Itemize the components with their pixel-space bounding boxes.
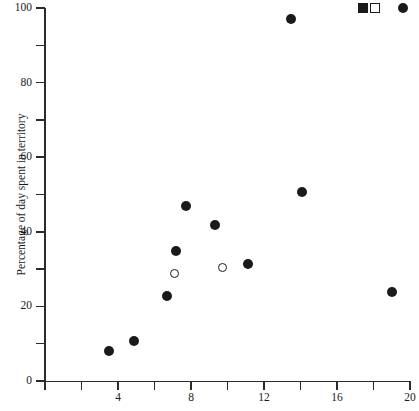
y-tick	[36, 194, 45, 196]
x-tick-label: 4	[115, 392, 121, 404]
data-point-open-circle	[218, 263, 227, 272]
x-tick-label: 20	[404, 392, 416, 404]
x-tick	[336, 381, 338, 390]
x-tick	[373, 381, 375, 390]
data-point-filled-circle	[171, 246, 181, 256]
data-point-open-circle	[170, 269, 179, 278]
x-tick	[409, 381, 411, 390]
y-tick	[36, 231, 45, 233]
x-tick	[81, 381, 83, 390]
x-tick	[190, 381, 192, 390]
y-tick	[36, 343, 45, 345]
x-tick	[154, 381, 156, 390]
data-point-filled-circle	[181, 201, 191, 211]
data-point-filled-circle	[210, 220, 220, 230]
x-tick	[263, 381, 265, 390]
data-point-filled-circle	[387, 287, 397, 297]
data-point-filled-circle	[129, 336, 139, 346]
x-axis-title	[45, 404, 410, 411]
data-point-filled-circle	[243, 259, 253, 269]
data-point-filled-circle	[297, 187, 307, 197]
x-tick-label: 12	[258, 392, 270, 404]
y-tick	[36, 45, 45, 47]
x-tick	[117, 381, 119, 390]
scatter-plot-figure: 020406080100 48121620 Percentage of day …	[0, 0, 419, 411]
y-axis-title: Percentage of day spent in territory	[14, 8, 28, 381]
x-tick	[227, 381, 229, 390]
x-tick	[300, 381, 302, 390]
legend-marker-filled-circle	[398, 3, 408, 13]
y-tick	[36, 156, 45, 158]
y-tick	[36, 119, 45, 121]
y-tick	[36, 7, 45, 9]
y-tick	[36, 82, 45, 84]
data-point-filled-circle	[162, 291, 172, 301]
legend-marker-open-square	[370, 3, 380, 13]
x-tick-label: 8	[188, 392, 194, 404]
x-tick-label: 16	[331, 392, 343, 404]
x-tick	[44, 381, 46, 390]
data-point-filled-circle	[286, 14, 296, 24]
y-tick	[36, 268, 45, 270]
legend-marker-filled-square	[358, 3, 368, 13]
y-tick	[36, 306, 45, 308]
data-point-filled-circle	[104, 346, 114, 356]
